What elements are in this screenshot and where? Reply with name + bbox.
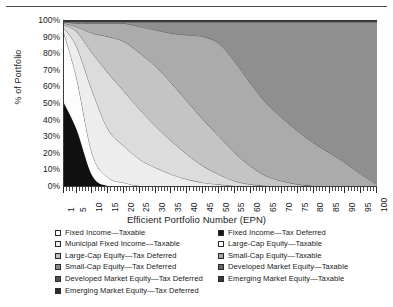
legend-item[interactable]: Municipal Fixed Income—Taxable [55,239,180,250]
x-minor-tick [246,187,247,191]
x-minor-tick [205,187,206,191]
x-minor-tick [145,187,146,191]
x-tick-label: 80 [316,203,324,212]
x-minor-tick [82,187,83,191]
y-tick-label: 50% [24,99,60,107]
x-minor-tick [319,187,320,191]
x-minor-tick [269,187,270,191]
x-minor-tick [136,187,137,191]
legend-item[interactable]: Small-Cap Equity—Taxable [218,250,322,261]
x-minor-tick [142,187,143,191]
x-minor-tick [278,187,279,191]
x-minor-tick [275,187,276,191]
x-minor-tick [221,187,222,191]
legend-item[interactable]: Large-Cap Equity—Taxable [218,239,322,250]
legend-item[interactable]: Developed Market Equity—Tax Deferred [55,273,203,284]
legend-item[interactable]: Emerging Market Equity—Tax Deferred [55,285,199,296]
x-minor-tick [316,187,317,191]
y-tick-label: 100% [24,16,60,24]
legend-item[interactable]: Fixed Income—Taxable [55,227,145,238]
x-minor-tick [161,187,162,191]
legend-item[interactable]: Emerging Market Equity—Taxable [218,273,344,284]
x-minor-tick [79,187,80,191]
x-tick-label: 20 [127,203,135,212]
x-tick-label: 40 [190,203,198,212]
y-tick-label: 20% [24,149,60,157]
legend-item[interactable]: Developed Market Equity—Taxable [218,262,348,273]
legend-swatch-icon [55,264,61,270]
x-minor-tick [243,187,244,191]
legend-swatch-icon [218,241,224,247]
legend-swatch-icon [55,288,61,294]
x-axis-title: Efficient Portfolio Number (EPN) [0,214,393,225]
x-minor-tick [303,187,304,191]
y-tick-label: 30% [24,132,60,140]
x-minor-tick [199,187,200,191]
y-tick-label: 10% [24,165,60,173]
x-minor-tick [152,187,153,191]
x-minor-tick [291,187,292,191]
y-axis-title: % of Portfolio [13,22,23,132]
x-minor-tick [237,187,238,191]
stacked-area-svg [64,20,377,186]
x-minor-tick [101,187,102,191]
x-tick-label: 90 [348,203,356,212]
y-tick-label: 0% [24,182,60,190]
x-minor-tick [114,187,115,191]
x-minor-tick [174,187,175,191]
x-minor-tick [262,187,263,191]
x-minor-tick [272,187,273,191]
x-minor-tick [215,187,216,191]
x-minor-tick [373,187,374,191]
x-minor-tick [310,187,311,191]
x-minor-tick [357,187,358,191]
x-minor-tick [253,187,254,191]
x-minor-tick [120,187,121,191]
x-tick-label: 1 [67,207,75,212]
x-minor-tick [158,187,159,191]
x-minor-tick [180,187,181,191]
legend-swatch-icon [218,276,224,282]
legend-swatch-icon [55,241,61,247]
figure-root: % of Portfolio 0%10%20%30%40%50%60%70%80… [0,0,393,307]
y-tick-label: 80% [24,49,60,57]
legend-item[interactable]: Fixed Income—Tax Deferred [218,227,326,238]
x-tick-label: 75 [301,203,309,212]
legend-item[interactable]: Large-Cap Equity—Tax Deferred [55,250,177,261]
x-minor-tick [332,187,333,191]
x-minor-tick [66,187,67,191]
x-minor-tick [287,187,288,191]
x-minor-tick [240,187,241,191]
legend-label: Fixed Income—Tax Deferred [228,229,326,237]
chart-legend: Fixed Income—TaxableMunicipal Fixed Inco… [55,227,393,305]
y-tick-label: 40% [24,116,60,124]
plot-area [63,20,377,187]
x-minor-tick [177,187,178,191]
legend-label: Developed Market Equity—Tax Deferred [65,275,203,283]
x-minor-tick [167,187,168,191]
legend-swatch-icon [218,253,224,259]
x-tick-label: 95 [364,203,372,212]
legend-swatch-icon [218,264,224,270]
x-tick-label: 70 [285,203,293,212]
x-minor-tick [325,187,326,191]
x-minor-tick [69,187,70,191]
x-minor-tick [367,187,368,191]
legend-item[interactable]: Small-Cap Equity—Tax Deferred [55,262,176,273]
x-minor-tick [212,187,213,191]
y-axis-tick-labels: 0%10%20%30%40%50%60%70%80%90%100% [24,14,60,192]
x-tick-label: 85 [332,203,340,212]
chart-plot-wrapper: % of Portfolio 0%10%20%30%40%50%60%70%80… [0,0,393,200]
x-minor-tick [300,187,301,191]
x-minor-tick [129,187,130,191]
x-minor-tick [85,187,86,191]
legend-swatch-icon [55,230,61,236]
x-minor-tick [224,187,225,191]
legend-swatch-icon [55,253,61,259]
x-minor-tick [351,187,352,191]
x-minor-tick [370,187,371,191]
x-minor-tick [284,187,285,191]
x-minor-tick [133,187,134,191]
x-minor-tick [335,187,336,191]
legend-swatch-icon [218,230,224,236]
